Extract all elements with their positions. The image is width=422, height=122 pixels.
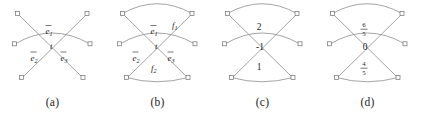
node-marker xyxy=(403,42,407,46)
fraction-numerator: 4 xyxy=(362,60,366,67)
node-marker xyxy=(193,42,197,46)
label-outer-bottom: f2 xyxy=(151,63,157,74)
panel-d: 6 5 0 4 5 (d) xyxy=(315,0,420,122)
node-marker xyxy=(190,12,194,16)
label-outer-top: f1 xyxy=(172,20,178,31)
strand-diagonal-2 xyxy=(232,14,297,78)
node-marker xyxy=(226,12,230,16)
svg-text:e2: e2 xyxy=(133,53,140,64)
svg-text:e1: e1 xyxy=(151,26,158,37)
node-marker xyxy=(291,76,295,80)
panel-c: 2 -1 1 (c) xyxy=(210,0,315,122)
label-left: e2 xyxy=(133,52,140,64)
panel-c-caption: (c) xyxy=(210,96,315,108)
label-center: -1 xyxy=(256,42,264,52)
svg-text:e1: e1 xyxy=(46,26,53,37)
node-marker xyxy=(16,12,20,16)
panel-a-caption: (a) xyxy=(0,96,105,108)
panel-a-diagram: e1 t e2 e3 xyxy=(0,0,105,96)
node-marker xyxy=(298,42,302,46)
node-marker xyxy=(400,12,404,16)
label-center: t xyxy=(155,41,158,51)
label-center: t xyxy=(50,41,53,51)
arc-outer-top xyxy=(123,4,193,14)
label-center: 0 xyxy=(363,42,368,52)
arc-outer-top xyxy=(333,4,403,14)
node-marker xyxy=(396,76,400,80)
label-arc-top: e1 xyxy=(151,26,158,38)
fraction-denominator: 5 xyxy=(362,30,366,37)
node-marker xyxy=(20,76,24,80)
label-right: e3 xyxy=(61,52,68,64)
node-marker xyxy=(186,76,190,80)
panel-c-diagram: 2 -1 1 xyxy=(210,0,315,96)
node-marker xyxy=(295,12,299,16)
panel-b-caption: (b) xyxy=(105,96,210,108)
node-marker xyxy=(331,12,335,16)
arc-outer-bottom xyxy=(232,78,294,82)
node-marker xyxy=(118,42,122,46)
panel-b: f1 e1 t e2 e3 f2 (b) xyxy=(105,0,210,122)
arc-outer-bottom xyxy=(337,78,399,82)
node-marker xyxy=(13,42,17,46)
arc-outer-bottom xyxy=(127,78,189,82)
node-marker xyxy=(81,76,85,80)
panel-b-diagram: f1 e1 t e2 e3 f2 xyxy=(105,0,210,96)
node-marker xyxy=(85,12,89,16)
node-marker xyxy=(328,42,332,46)
label-top-fraction: 6 5 xyxy=(361,21,368,37)
svg-text:e3: e3 xyxy=(61,53,68,64)
panel-a: e1 t e2 e3 (a) xyxy=(0,0,105,122)
fraction-denominator: 5 xyxy=(362,69,366,76)
arc-outer-top xyxy=(228,4,298,14)
label-bottom-fraction: 4 5 xyxy=(361,60,368,76)
node-marker xyxy=(230,76,234,80)
label-top: 2 xyxy=(257,22,262,32)
fraction-numerator: 6 xyxy=(362,21,366,28)
strand-diagonal-2 xyxy=(22,14,87,78)
node-marker xyxy=(125,76,129,80)
figure-container: e1 t e2 e3 (a) f1 xyxy=(0,0,422,122)
label-arc-top: e1 xyxy=(46,26,53,38)
strand-diagonal-2 xyxy=(337,14,402,78)
node-marker xyxy=(121,12,125,16)
node-marker xyxy=(223,42,227,46)
panel-d-caption: (d) xyxy=(315,96,420,108)
svg-text:e3: e3 xyxy=(168,53,175,64)
label-left: e2 xyxy=(31,52,38,64)
arc-inner xyxy=(330,33,405,44)
strand-diagonal-2 xyxy=(127,14,192,78)
node-marker xyxy=(88,42,92,46)
label-right: e3 xyxy=(168,52,175,64)
panel-d-diagram: 6 5 0 4 5 xyxy=(315,0,420,96)
svg-text:e2: e2 xyxy=(31,53,38,64)
node-marker xyxy=(335,76,339,80)
label-bottom: 1 xyxy=(257,62,262,72)
